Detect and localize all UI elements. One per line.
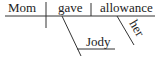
direct-object-word: allowance: [100, 0, 153, 15]
sentence-diagram: Mom gave allowance Jody her: [0, 0, 158, 58]
indirect-object-slant: [62, 16, 81, 56]
indirect-object-word: Jody: [86, 34, 111, 49]
subject-word: Mom: [8, 0, 36, 15]
verb-word: gave: [58, 0, 83, 15]
modifier-word: her: [126, 17, 148, 39]
